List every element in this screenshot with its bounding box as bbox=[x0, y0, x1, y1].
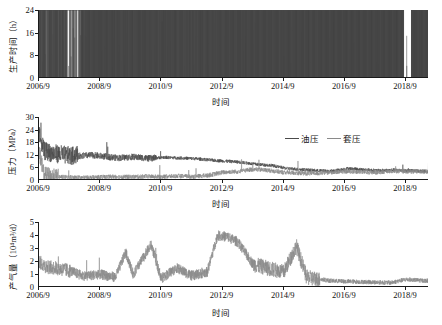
legend-item-casing-pressure[interactable]: 套压 bbox=[327, 132, 361, 144]
x-tick-mark bbox=[222, 287, 223, 290]
y-tick-label: 24 bbox=[26, 6, 35, 15]
x-tick-mark bbox=[283, 180, 284, 183]
x-tick-mark bbox=[344, 180, 345, 183]
x-tick-mark bbox=[405, 180, 406, 183]
x-tick-label: 2014/9 bbox=[271, 183, 295, 193]
x-tick-mark bbox=[99, 287, 100, 290]
x-tick-label: 2016/9 bbox=[332, 290, 356, 300]
x-tick-label: 2006/9 bbox=[26, 183, 50, 193]
y-tick-mark bbox=[35, 222, 38, 223]
x-tick-label: 2012/9 bbox=[210, 183, 234, 193]
x-tick-mark bbox=[344, 78, 345, 81]
x-tick-mark bbox=[38, 180, 39, 183]
y-tick-label: 3 bbox=[30, 244, 34, 253]
series-pressure bbox=[39, 117, 428, 180]
gas-rate-series bbox=[39, 231, 428, 287]
legend-swatch bbox=[327, 138, 341, 139]
y-axis-label-gas-text: 产气量（10⁴m³/d） bbox=[8, 218, 18, 290]
x-tick-mark bbox=[38, 287, 39, 290]
x-tick-mark bbox=[405, 287, 406, 290]
x-tick-mark bbox=[344, 287, 345, 290]
y-tick-mark bbox=[35, 248, 38, 249]
x-tick-mark bbox=[99, 78, 100, 81]
y-axis-label-pressure: 压力（MPa） bbox=[5, 113, 17, 185]
x-tick-mark bbox=[38, 78, 39, 81]
x-axis-label-hours: 时间 bbox=[0, 95, 442, 107]
y-tick-label: 4 bbox=[30, 231, 34, 240]
x-tick-mark bbox=[160, 180, 161, 183]
x-tick-label: 2006/9 bbox=[26, 290, 50, 300]
x-tick-label: 2006/9 bbox=[26, 81, 50, 91]
x-tick-label: 2018/9 bbox=[393, 183, 417, 193]
x-tick-mark bbox=[222, 78, 223, 81]
y-tick-label: 8 bbox=[30, 51, 34, 60]
x-tick-label: 2008/9 bbox=[87, 81, 111, 91]
x-tick-mark bbox=[160, 78, 161, 81]
y-tick-mark bbox=[35, 167, 38, 168]
x-tick-label: 2018/9 bbox=[393, 81, 417, 91]
y-tick-mark bbox=[35, 117, 38, 118]
y-tick-label: 1 bbox=[30, 270, 34, 279]
x-tick-mark bbox=[283, 78, 284, 81]
x-tick-mark bbox=[160, 287, 161, 290]
legend-label: 套压 bbox=[343, 132, 361, 144]
x-tick-label: 2010/9 bbox=[149, 183, 173, 193]
pressure-series-casing bbox=[39, 147, 428, 180]
y-tick-mark bbox=[35, 155, 38, 156]
production-hours-bars bbox=[39, 10, 428, 78]
y-tick-mark bbox=[35, 274, 38, 275]
x-tick-label: 2014/9 bbox=[271, 290, 295, 300]
y-tick-mark bbox=[35, 33, 38, 34]
series-gas-rate bbox=[39, 222, 428, 287]
y-tick-label: 2 bbox=[30, 257, 34, 266]
y-tick-mark bbox=[35, 55, 38, 56]
x-tick-label: 2016/9 bbox=[332, 81, 356, 91]
x-tick-label: 2018/9 bbox=[393, 290, 417, 300]
legend-label: 油压 bbox=[301, 132, 319, 144]
legend-item-tubing-pressure[interactable]: 油压 bbox=[285, 132, 319, 144]
y-tick-label: 16 bbox=[26, 28, 35, 37]
figure-well-production-history: 生产时间（h） 081624 时间 2006/92008/92010/92012… bbox=[0, 0, 442, 325]
y-tick-label: 18 bbox=[26, 138, 35, 147]
y-tick-label: 24 bbox=[26, 125, 35, 134]
y-axis-label-hours: 生产时间（h） bbox=[6, 8, 18, 80]
legend-pressure: 油压套压 bbox=[285, 132, 367, 144]
panel-gas-rate: 产气量（10⁴m³/d） 012345 时间 2006/92008/92010/… bbox=[0, 210, 442, 325]
y-tick-mark bbox=[35, 130, 38, 131]
y-tick-mark bbox=[35, 142, 38, 143]
y-tick-mark bbox=[35, 261, 38, 262]
x-tick-label: 2012/9 bbox=[210, 81, 234, 91]
plot-area-production-hours bbox=[38, 10, 428, 78]
y-tick-mark bbox=[35, 10, 38, 11]
y-axis-label-gas: 产气量（10⁴m³/d） bbox=[6, 215, 18, 293]
x-axis-label-pressure: 时间 bbox=[0, 197, 442, 209]
pressure-series-tubing bbox=[39, 123, 428, 173]
x-axis-label-gas: 时间 bbox=[0, 306, 442, 318]
panel-pressure: 压力（MPa） 0612182430 油压套压 时间 2006/92008/92… bbox=[0, 108, 442, 210]
y-tick-label: 5 bbox=[30, 218, 34, 227]
x-tick-label: 2014/9 bbox=[271, 81, 295, 91]
plot-area-pressure bbox=[38, 117, 428, 180]
legend-swatch bbox=[285, 138, 299, 139]
x-tick-label: 2010/9 bbox=[149, 290, 173, 300]
x-tick-label: 2010/9 bbox=[149, 81, 173, 91]
y-tick-label: 12 bbox=[26, 151, 35, 160]
y-tick-label: 6 bbox=[30, 163, 34, 172]
x-tick-label: 2008/9 bbox=[87, 290, 111, 300]
x-tick-mark bbox=[222, 180, 223, 183]
y-tick-label: 30 bbox=[26, 113, 35, 122]
x-tick-label: 2016/9 bbox=[332, 183, 356, 193]
x-tick-label: 2012/9 bbox=[210, 290, 234, 300]
x-tick-label: 2008/9 bbox=[87, 183, 111, 193]
x-tick-mark bbox=[283, 287, 284, 290]
panel-production-hours: 生产时间（h） 081624 时间 2006/92008/92010/92012… bbox=[0, 0, 442, 108]
x-tick-mark bbox=[405, 78, 406, 81]
plot-area-gas-rate bbox=[38, 222, 428, 287]
x-tick-mark bbox=[99, 180, 100, 183]
y-tick-mark bbox=[35, 235, 38, 236]
series-production-hours bbox=[39, 10, 428, 78]
